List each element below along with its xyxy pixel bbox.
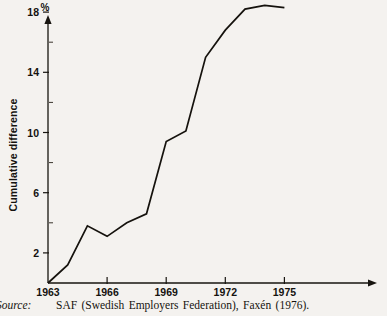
source-label: Source: — [0, 299, 31, 311]
y-tick-label: 6 — [33, 187, 39, 199]
source-note: Source: SAF (Swedish Employers Federatio… — [0, 298, 387, 316]
plot-background — [0, 0, 387, 316]
figure-container: % Cumulative difference 26101418 1963196… — [0, 0, 387, 316]
x-tick-label: 1975 — [273, 286, 297, 298]
y-tick-label: 10 — [27, 127, 39, 139]
y-tick-label: 18 — [27, 6, 39, 18]
x-tick-label: 1963 — [36, 286, 60, 298]
y-tick-label: 2 — [33, 247, 39, 259]
unit-label: % — [41, 2, 50, 13]
y-tick-label: 14 — [27, 66, 39, 78]
x-tick-label: 1966 — [95, 286, 119, 298]
cumulative-difference-line-chart: % Cumulative difference 26101418 1963196… — [0, 0, 387, 316]
y-axis-title: Cumulative difference — [7, 99, 19, 212]
source-text: SAF (Swedish Employers Federation), Faxé… — [56, 299, 309, 311]
x-tick-label: 1972 — [214, 286, 238, 298]
x-tick-label: 1969 — [155, 286, 179, 298]
